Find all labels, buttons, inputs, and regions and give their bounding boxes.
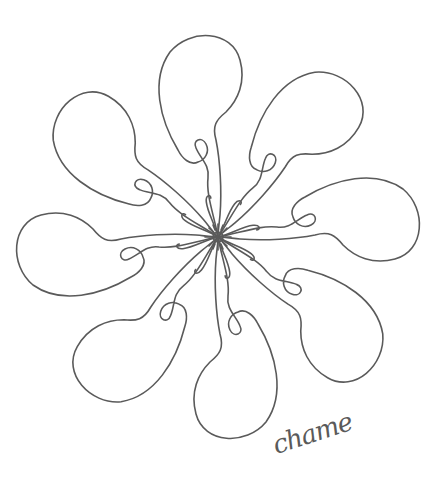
petal-7 xyxy=(17,213,218,296)
flower-drawing xyxy=(0,0,439,490)
petal-5 xyxy=(194,237,277,438)
petal-group xyxy=(17,36,420,439)
petal-3 xyxy=(218,178,419,261)
petal-1 xyxy=(159,36,242,237)
